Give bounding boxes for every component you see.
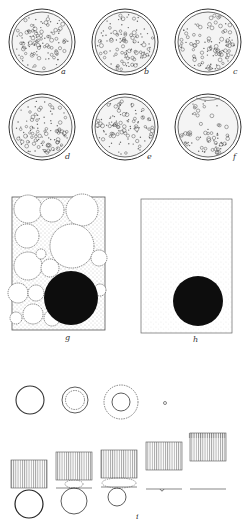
dish-c	[175, 9, 241, 75]
label-i: i	[136, 512, 139, 521]
label-d: d	[65, 152, 70, 161]
panel-i-top-row	[16, 385, 226, 438]
dish-panels	[9, 9, 241, 160]
dish-d	[9, 94, 75, 160]
panel-i-bottom-row	[11, 433, 226, 518]
panel-h-fine-particles	[141, 199, 232, 333]
label-f: f	[233, 152, 236, 161]
label-e: e	[147, 152, 152, 161]
black-sphere-h	[173, 276, 223, 326]
label-g: g	[65, 333, 70, 342]
dish-b	[92, 9, 158, 75]
dish-a	[9, 9, 75, 75]
black-sphere-g	[44, 271, 98, 325]
dish-f	[175, 94, 241, 160]
label-h: h	[193, 335, 198, 344]
label-a: a	[61, 67, 66, 76]
label-b: b	[144, 67, 149, 76]
dish-e	[92, 94, 158, 160]
panel-g-packed-spheres	[8, 194, 107, 330]
figure-canvas	[0, 0, 248, 525]
label-c: c	[233, 67, 237, 76]
